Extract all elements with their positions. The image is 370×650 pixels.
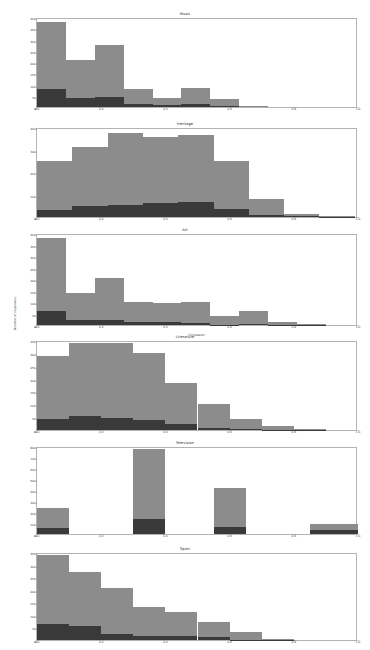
bar xyxy=(69,343,101,430)
bar xyxy=(198,404,230,430)
x-tick-label: 0.0 xyxy=(35,326,40,329)
bar-segment-lower xyxy=(239,324,268,325)
bar xyxy=(230,419,262,430)
bar-segment-lower xyxy=(101,634,133,640)
bar-segment-upper xyxy=(249,199,284,215)
y-tick-label: 300 xyxy=(30,353,36,356)
y-tick-label: 400 xyxy=(30,128,36,131)
y-tick-label: 50 xyxy=(32,96,36,99)
bar xyxy=(297,324,326,325)
bar-segment-upper xyxy=(69,343,101,416)
x-tick-label: 0.4 xyxy=(163,431,168,434)
y-tick-label: 50 xyxy=(32,418,36,421)
y-tick-label: 400 xyxy=(30,491,36,494)
x-tick-label: 0.6 xyxy=(227,431,232,434)
y-axis-label: Number of responses xyxy=(13,297,17,330)
bar-segment-upper xyxy=(124,302,153,323)
bar-segment-lower xyxy=(181,104,210,107)
plot-area-literature: 0501001502002503003500.00.20.40.60.81.0 xyxy=(36,341,357,431)
x-tick-label: 1.0 xyxy=(356,641,361,644)
x-tick-label: 0.8 xyxy=(291,326,296,329)
y-tick-label: 200 xyxy=(30,280,36,283)
bar-segment-upper xyxy=(210,316,239,325)
y-tick-label: 350 xyxy=(30,341,36,344)
bar xyxy=(239,106,268,107)
y-tick-label: 100 xyxy=(30,85,36,88)
bar-segment-upper xyxy=(153,303,182,322)
y-tick-label: 200 xyxy=(30,379,36,382)
bar xyxy=(66,60,95,107)
bar xyxy=(239,311,268,325)
x-tick-label: 0.6 xyxy=(227,218,232,221)
x-tick-label: 0.4 xyxy=(163,326,168,329)
bar-segment-upper xyxy=(214,488,246,528)
y-tick-label: 250 xyxy=(30,268,36,271)
bar xyxy=(133,353,165,430)
x-tick-label: 0.2 xyxy=(99,535,104,538)
x-tick-label: 0.4 xyxy=(163,535,168,538)
panel-title-art: Art xyxy=(0,228,370,233)
bar-segment-lower xyxy=(181,323,210,325)
bar xyxy=(143,137,178,217)
y-tick-label: 100 xyxy=(30,615,36,618)
bar-segment-lower xyxy=(66,98,95,107)
bar xyxy=(95,45,124,107)
bar-segment-lower xyxy=(124,322,153,325)
x-tick-label: 0.8 xyxy=(291,535,296,538)
bar-segment-lower xyxy=(37,311,66,325)
x-tick-label: 0.4 xyxy=(163,218,168,221)
bar-segment-upper xyxy=(143,137,178,203)
bar xyxy=(37,508,69,534)
bar-segment-upper xyxy=(178,135,213,202)
y-tick-label: 200 xyxy=(30,63,36,66)
bar xyxy=(284,214,319,217)
bar xyxy=(124,89,153,107)
x-tick-label: 0.0 xyxy=(35,431,40,434)
y-tick-label: 200 xyxy=(30,590,36,593)
bar xyxy=(37,555,69,640)
y-tick-label: 250 xyxy=(30,366,36,369)
panel-title-sport: Sport xyxy=(0,547,370,552)
y-tick-label: 150 xyxy=(30,603,36,606)
y-tick-label: 100 xyxy=(30,524,36,527)
bar-segment-upper xyxy=(133,607,165,636)
bar-segment-lower xyxy=(230,640,262,641)
x-tick-label: 0.2 xyxy=(99,108,104,111)
bar-segment-upper xyxy=(133,353,165,420)
x-tick-label: 1.0 xyxy=(356,108,361,111)
y-tick-label: 200 xyxy=(30,513,36,516)
x-tick-label: 0.8 xyxy=(291,218,296,221)
bar-segment-lower xyxy=(310,530,358,534)
bar-segment-upper xyxy=(101,588,133,633)
bar-segment-lower xyxy=(153,105,182,107)
x-tick-label: 0.0 xyxy=(35,535,40,538)
bar xyxy=(181,302,210,325)
bar xyxy=(178,135,213,217)
bar-segment-upper xyxy=(95,45,124,97)
x-tick-label: 0.2 xyxy=(99,326,104,329)
y-tick-label: 250 xyxy=(30,51,36,54)
y-tick-label: 100 xyxy=(30,195,36,198)
bar xyxy=(230,632,262,640)
bar-segment-upper xyxy=(239,106,268,107)
bar xyxy=(214,161,249,217)
x-tick-label: 1.0 xyxy=(356,431,361,434)
bar-segment-lower xyxy=(66,320,95,325)
bar xyxy=(37,356,69,430)
bar-segment-upper xyxy=(108,133,143,205)
y-tick-label: 50 xyxy=(32,314,36,317)
x-tick-label: 1.0 xyxy=(356,326,361,329)
bar-segment-lower xyxy=(249,215,284,217)
y-tick-label: 150 xyxy=(30,392,36,395)
figure-canvas: Music0501001502002503003504000.00.20.40.… xyxy=(0,0,370,650)
y-tick-label: 300 xyxy=(30,502,36,505)
x-tick-label: 0.6 xyxy=(227,326,232,329)
bar xyxy=(133,449,165,534)
bar xyxy=(165,612,197,640)
bar-segment-lower xyxy=(214,527,246,534)
bar xyxy=(153,303,182,325)
y-tick-label: 300 xyxy=(30,257,36,260)
bar xyxy=(262,639,294,640)
bar-segment-lower xyxy=(95,97,124,107)
y-tick-label: 500 xyxy=(30,480,36,483)
